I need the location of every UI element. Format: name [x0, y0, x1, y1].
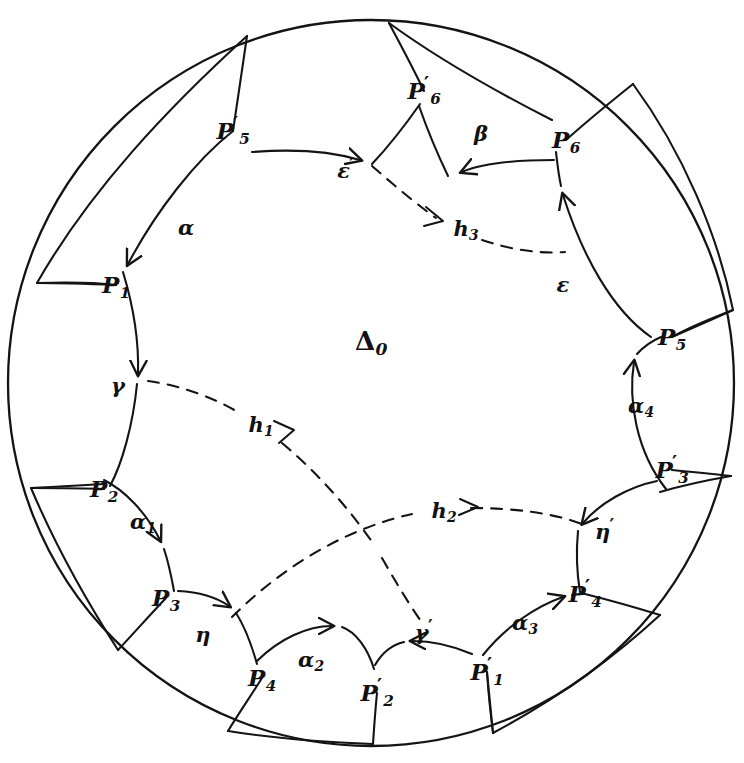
vertex-label-P5prime: P′5: [216, 119, 249, 143]
side-arc-eta-tail: [236, 613, 257, 664]
tile-arc-upper-left: [37, 36, 247, 283]
dashed-geodesic-h2-right: [471, 508, 584, 525]
side-arc-beta-tail: [419, 106, 448, 176]
side-arc-gamma-tail: [110, 384, 137, 486]
side-arc-epsilon: [563, 195, 651, 337]
side-arc-gamma-prime-tail: [375, 642, 404, 665]
vertex-label-P5: P5: [658, 325, 686, 349]
geodesic-label-h3: h3: [454, 218, 479, 239]
vertex-label-P4: P4: [248, 666, 276, 690]
geodesic-label-h1: h1: [249, 414, 274, 435]
edge-label-alpha: α: [178, 217, 194, 238]
edge-label-alpha2: α2: [298, 649, 324, 670]
vertex-label-P4prime: P′4: [568, 582, 601, 606]
vertex-label-P6: P6: [552, 128, 580, 152]
edge-label-alpha3: α3: [512, 612, 538, 633]
edge-label-epsilon: ε: [557, 274, 570, 295]
region-label-delta-zero: Δ0: [355, 328, 387, 354]
edge-label-eta: η: [195, 624, 210, 645]
vertex-label-P6prime: P′6: [407, 79, 440, 103]
dashed-arrowhead-h1: [274, 421, 294, 443]
side-arc-beta: [462, 160, 554, 172]
tile-arc-bottom: [228, 731, 373, 744]
figure-canvas: P′5 P′6 P6 P5 P′3 P′4 P′1 P′2 P4 P3 P2 P…: [0, 0, 744, 763]
dashed-geodesic-h2-left: [232, 514, 412, 617]
side-arc-alpha: [128, 131, 233, 264]
vertex-label-P2prime: P′2: [360, 681, 393, 705]
tile-arc-lower-left: [31, 488, 118, 650]
vertex-label-P1: P1: [102, 273, 130, 297]
vertex-label-P3prime: P′3: [655, 458, 688, 482]
edge-label-eta-prime: η′: [595, 521, 615, 542]
edge-label-gamma: γ: [111, 375, 125, 396]
dashed-geodesic-h1-upper: [148, 381, 236, 411]
edge-label-alpha4: α4: [628, 395, 654, 416]
side-arc-eta: [178, 591, 229, 606]
edge-label-epsilon-prime: ε′: [337, 160, 355, 181]
vertex-label-P1prime: P′1: [470, 660, 503, 684]
side-arc-alpha2-tail: [342, 627, 374, 669]
vertex-label-P3: P3: [152, 586, 180, 610]
vertex-label-P2: P2: [90, 477, 118, 501]
side-arc-epsilon-tail: [556, 152, 561, 186]
edge-label-beta: β: [474, 123, 488, 144]
dashed-geodesic-h3-left: [372, 166, 436, 218]
edge-label-gamma-prime: γ′: [415, 622, 434, 643]
dashed-geodesic-h1-tail: [382, 558, 423, 624]
dashed-geodesic-h1-lower: [282, 443, 375, 546]
side-arc-eta-prime: [583, 481, 657, 523]
edge-label-alpha1: α1: [130, 511, 156, 532]
side-arc-epsilon-prime-tail: [372, 104, 420, 164]
geodesic-label-h2: h2: [432, 500, 457, 521]
dashed-geodesic-h3-right: [482, 240, 565, 253]
